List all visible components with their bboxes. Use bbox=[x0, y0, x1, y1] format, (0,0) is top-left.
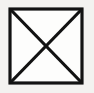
square-with-diagonals-figure bbox=[0, 0, 94, 93]
figure-root bbox=[0, 0, 94, 93]
